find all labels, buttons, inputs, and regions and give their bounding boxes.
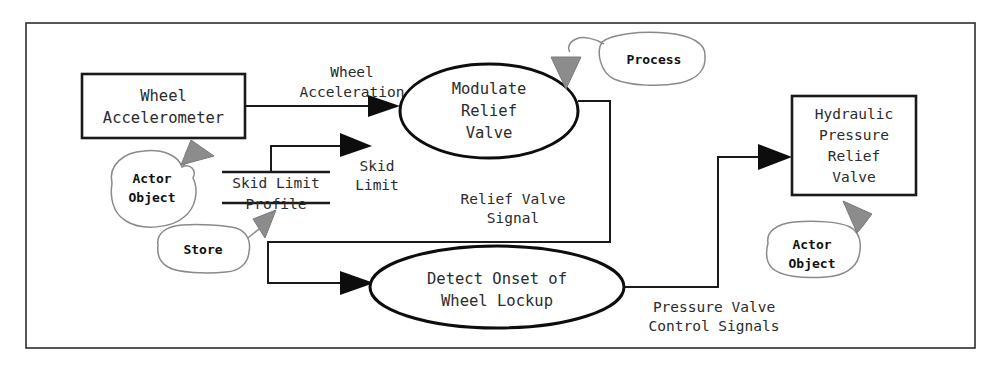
flow-label-line-1: Pressure Valve [653,299,775,315]
flow-label-line-1: Relief Valve [461,191,566,207]
process-label-line-3: Valve [466,124,513,142]
annotation-label-line-2: Object [789,256,836,271]
annotation-label-line-1: Actor [792,237,831,252]
external-entity-box [82,74,245,138]
flow-label-line-2: Acceleration [300,84,405,100]
process-label-line-1: Modulate [452,80,527,98]
annotation-label-line-1: Process [627,52,682,67]
external-entity-label-line-4: Valve [832,169,876,185]
external-entity-label-line-1: Wheel [140,87,187,105]
flow-label-line-2: Limit [355,177,399,193]
external-entity-label-line-2: Pressure [819,127,889,143]
process-label-line-2: Wheel Lockup [441,292,553,310]
process-label-line-1: Detect Onset of [427,270,567,288]
diagram-canvas: Wheel Accelerometer Hydraulic Pressure R… [0,0,1002,365]
flow-label-line-2: Control Signals [649,318,780,334]
external-entity-label-line-1: Hydraulic [815,106,894,122]
external-entity-wheel-accelerometer[interactable]: Wheel Accelerometer [82,74,245,138]
external-entity-hydraulic-pressure-relief-valve[interactable]: Hydraulic Pressure Relief Valve [792,96,916,195]
flow-label-line-1: Skid [360,158,395,174]
data-store-label-line-1: Skid Limit [232,175,319,191]
dfd-diagram-page: Wheel Accelerometer Hydraulic Pressure R… [0,0,1002,365]
process-label-line-2: Relief [461,102,517,120]
annotation-label-line-1: Store [183,242,222,257]
annotation-label-line-1: Actor [132,171,171,186]
annotation-label-line-2: Object [129,190,176,205]
external-entity-label-line-2: Accelerometer [103,109,224,127]
process-detect-onset-of-wheel-lockup[interactable]: Detect Onset of Wheel Lockup [370,246,624,328]
process-modulate-relief-valve[interactable]: Modulate Relief Valve [400,64,578,158]
flow-label-line-2: Signal [487,210,539,226]
external-entity-label-line-3: Relief [828,148,880,164]
flow-label-line-1: Wheel [330,64,374,80]
